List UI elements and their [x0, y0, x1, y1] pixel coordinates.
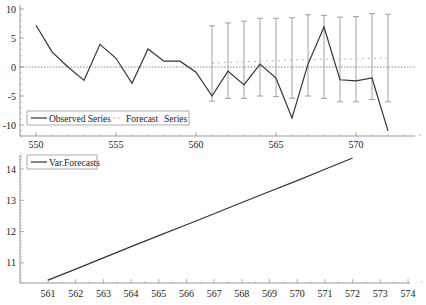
y-tick-label: 5	[11, 33, 16, 44]
chart-canvas: 1050-5-10550555560565570Observed SeriesF…	[0, 0, 426, 305]
forecast-series-line	[212, 58, 388, 63]
x-tick-label: 572	[345, 288, 360, 299]
x-tick-label: 555	[109, 139, 124, 150]
x-tick-label: 564	[124, 288, 139, 299]
x-tick-label: 550	[29, 139, 44, 150]
y-tick-label: 14	[6, 164, 16, 175]
x-tick-label: 560	[189, 139, 204, 150]
x-tick-label: 571	[317, 288, 332, 299]
var-forecasts-line	[48, 158, 353, 280]
bottom-legend: Var.Forecasts	[27, 155, 100, 169]
y-tick-label: 12	[6, 226, 16, 237]
legend-label-observed: Observed Series	[49, 114, 111, 124]
top-legend: Observed SeriesForecastSeries	[27, 111, 189, 125]
x-tick-label: 574	[401, 288, 416, 299]
x-tick-label: 569	[262, 288, 277, 299]
y-tick-label: -10	[3, 120, 16, 131]
x-tick-label: 565	[151, 288, 166, 299]
x-tick-label: 562	[68, 288, 83, 299]
x-tick-label: 561	[41, 288, 56, 299]
y-tick-label: -5	[8, 91, 16, 102]
top-chart-observed-forecast: 1050-5-10550555560565570Observed SeriesF…	[3, 4, 420, 151]
x-tick-label: 565	[269, 139, 284, 150]
x-tick-label: 566	[179, 288, 194, 299]
x-tick-label: 567	[207, 288, 222, 299]
legend-label-series: Series	[164, 114, 188, 124]
x-tick-label: 570	[290, 288, 305, 299]
legend-label-forecast: Forecast	[126, 114, 159, 124]
x-tick-label: 568	[234, 288, 249, 299]
x-tick-label: 570	[349, 139, 364, 150]
y-tick-label: 10	[6, 4, 16, 15]
legend-label-var-forecasts: Var.Forecasts	[49, 158, 100, 168]
x-tick-label: 563	[96, 288, 111, 299]
y-tick-label: 11	[6, 257, 16, 268]
y-tick-label: 0	[11, 62, 16, 73]
x-tick-label: 573	[373, 288, 388, 299]
bottom-chart-var-forecasts: 1413121156156256356456556656756856957057…	[6, 153, 422, 299]
y-tick-label: 13	[6, 195, 16, 206]
